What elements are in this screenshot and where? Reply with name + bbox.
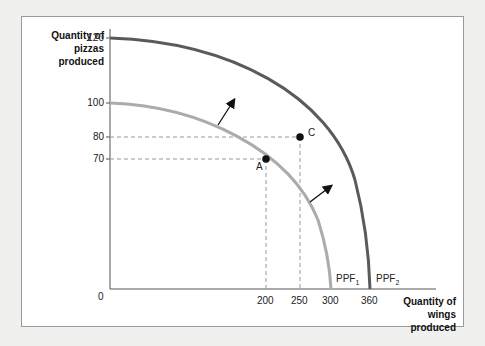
- point-c-label: C: [308, 127, 315, 138]
- x-tick-300: 300: [322, 295, 339, 306]
- y-tick-120: 120: [84, 32, 104, 43]
- y-tick-70: 70: [84, 153, 104, 164]
- y-tick-100: 100: [84, 97, 104, 108]
- shift-arrow-icon: [310, 186, 331, 202]
- ppf2-label: PPF2: [376, 273, 399, 286]
- y-tick-80: 80: [84, 131, 104, 142]
- ppf1-label: PPF1: [336, 273, 359, 286]
- x-axis-label: Quantity ofwings produced: [392, 295, 456, 334]
- x-tick-360: 360: [361, 295, 378, 306]
- ppf1-curve: [110, 103, 331, 289]
- point-a-label: A: [256, 161, 263, 172]
- shift-arrow-icon: [218, 100, 234, 125]
- x-tick-0: 0: [98, 291, 104, 302]
- point-a: [262, 155, 270, 163]
- point-c: [296, 133, 304, 141]
- ppf2-curve: [110, 38, 370, 289]
- x-tick-250: 250: [291, 295, 308, 306]
- x-tick-200: 200: [257, 295, 274, 306]
